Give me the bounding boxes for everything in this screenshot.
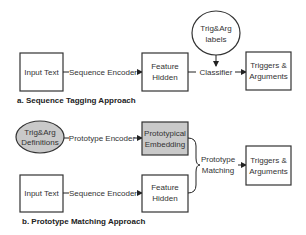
sequence-encoder-arrow-b: Sequence Encoder	[63, 189, 142, 198]
feature-hidden-box-b: Feature Hidden	[142, 175, 188, 212]
definitions-line2: Definitions	[21, 138, 58, 147]
input-text-box-a: Input Text	[20, 53, 63, 91]
output-line1-b: Triggers &	[250, 156, 287, 165]
output-line2-b: Arguments	[249, 167, 288, 176]
prototype-matching-arrow: Prototype Matching	[201, 155, 246, 175]
labels-ellipse-line1: Trig&Arg	[200, 24, 231, 33]
triggers-arguments-box-a: Triggers & Arguments	[246, 52, 291, 90]
prototype-encoder-arrow: Prototype Encoder	[64, 134, 142, 143]
input-text-label-b: Input Text	[24, 189, 59, 198]
prototype-encoder-label: Prototype Encoder	[69, 134, 136, 143]
feature-hidden-line2-b: Hidden	[152, 194, 177, 203]
section-b-prototype-matching: Trig&Arg Definitions Prototype Encoder P…	[16, 121, 291, 226]
feature-hidden-line2-a: Hidden	[152, 73, 177, 82]
caption-a: a. Sequence Tagging Approach	[17, 96, 136, 105]
diagram-canvas: Input Text Sequence Encoder Feature Hidd…	[0, 0, 306, 235]
feature-hidden-box-a: Feature Hidden	[142, 53, 188, 91]
definitions-line1: Trig&Arg	[24, 128, 55, 137]
sequence-encoder-label-a: Sequence Encoder	[69, 68, 137, 77]
merge-bracket	[188, 138, 200, 193]
input-text-box-b: Input Text	[20, 175, 63, 212]
sequence-encoder-arrow-a: Sequence Encoder	[63, 68, 142, 77]
sequence-encoder-label-b: Sequence Encoder	[69, 189, 137, 198]
trig-arg-labels-ellipse: Trig&Arg labels	[192, 11, 240, 66]
prototypical-embedding-box: Prototypical Embedding	[142, 122, 188, 155]
section-a-sequence-tagging: Input Text Sequence Encoder Feature Hidd…	[17, 11, 291, 105]
output-line2-a: Arguments	[249, 72, 288, 81]
triggers-arguments-box-b: Triggers & Arguments	[246, 146, 291, 185]
matching-line2: Matching	[202, 166, 234, 175]
trig-arg-definitions-ellipse: Trig&Arg Definitions	[16, 121, 64, 153]
classifier-label: Classifier	[200, 68, 233, 77]
caption-b: b. Prototype Matching Approach	[22, 217, 145, 226]
embedding-line2: Embedding	[145, 140, 185, 149]
embedding-line1: Prototypical	[144, 129, 186, 138]
output-line1-a: Triggers &	[250, 61, 287, 70]
labels-ellipse-line2: labels	[206, 35, 227, 44]
feature-hidden-line1-a: Feature	[151, 62, 179, 71]
matching-line1: Prototype	[201, 155, 236, 164]
input-text-label-a: Input Text	[24, 68, 59, 77]
classifier-arrow: Classifier	[188, 68, 246, 77]
feature-hidden-line1-b: Feature	[151, 183, 179, 192]
